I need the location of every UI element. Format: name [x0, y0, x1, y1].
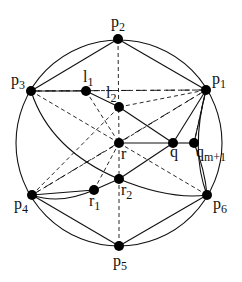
label-r1: r1: [89, 192, 100, 213]
label-l1: l1: [83, 68, 93, 89]
dashed-edge-p2-r: [118, 39, 119, 143]
label-r2: r2: [121, 181, 132, 202]
solid-edge-p5-p6: [119, 195, 207, 246]
node-p1: [201, 85, 211, 95]
node-p2: [113, 34, 123, 44]
label-p4: p4: [14, 195, 28, 216]
solid-edge-p1-q: [173, 90, 206, 143]
label-q: q: [170, 143, 178, 161]
label-p6: p6: [213, 195, 227, 216]
label-p1: p1: [212, 70, 226, 91]
diagram-canvas: p1p2p3p4p5p6l1l2rqqm+1r2r1: [0, 0, 242, 282]
label-p2: p2: [111, 13, 125, 34]
node-p5: [114, 241, 124, 251]
label-p5: p5: [113, 252, 127, 273]
node-p4: [27, 190, 37, 200]
solid-edge-q-r2: [119, 143, 173, 179]
solid-edge-p4-p5: [32, 195, 119, 246]
graph-figure: p1p2p3p4p5p6l1l2rqqm+1r2r1: [0, 0, 242, 282]
solid-edge-p3-p2: [31, 39, 118, 91]
label-r: r: [121, 145, 127, 162]
solid-edge-p2-p1: [118, 39, 206, 90]
node-p6: [202, 190, 212, 200]
label-p3: p3: [11, 71, 25, 92]
dashed-edge-l2-p1: [119, 90, 206, 107]
node-p3: [26, 86, 36, 96]
